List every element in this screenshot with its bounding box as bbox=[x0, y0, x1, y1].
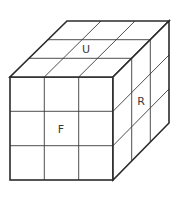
cube-diagram: U F R bbox=[0, 0, 179, 201]
front-face-label: F bbox=[58, 124, 64, 135]
cube-drawing bbox=[0, 0, 179, 201]
up-face-label: U bbox=[82, 44, 90, 55]
right-face-label: R bbox=[137, 96, 145, 107]
